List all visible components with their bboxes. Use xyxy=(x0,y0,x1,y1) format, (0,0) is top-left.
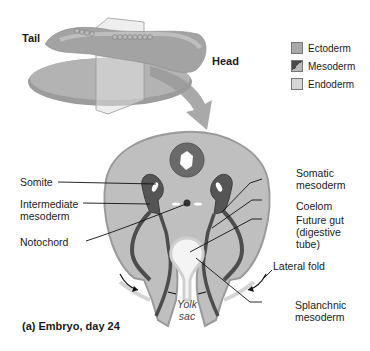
somatic-mesoderm-label-1: Somatic xyxy=(296,167,334,179)
notochord-label: Notochord xyxy=(20,236,68,248)
notochord xyxy=(184,200,191,207)
dorsal-aorta-right xyxy=(194,202,202,205)
future-gut-label-1: Future gut xyxy=(296,214,344,226)
legend-label: Endoderm xyxy=(308,79,354,90)
somite-label: Somite xyxy=(20,176,53,188)
legend-item-endoderm: Endoderm xyxy=(291,78,354,90)
somatic-mesoderm-label-2: mesoderm xyxy=(296,179,346,191)
figure-caption: (a) Embryo, day 24 xyxy=(22,320,120,332)
dorsal-aorta-left xyxy=(172,202,180,205)
cross-section xyxy=(104,132,269,326)
future-gut-label-3: tube) xyxy=(296,238,320,250)
lateral-fold-label: Lateral fold xyxy=(273,260,325,272)
intermediate-mesoderm-label-2: mesoderm xyxy=(20,210,70,222)
coelom-label: Coelom xyxy=(296,200,332,212)
legend-label: Ectoderm xyxy=(308,43,351,54)
legend-label: Mesoderm xyxy=(308,61,355,72)
yolk-sac-label-2: sac xyxy=(174,310,200,322)
legend-item-ectoderm: Ectoderm xyxy=(291,42,351,54)
mesoderm-swatch xyxy=(291,60,303,72)
splanchnic-mesoderm-label-1: Splanchnic xyxy=(295,299,346,311)
endoderm-swatch xyxy=(291,78,303,90)
future-gut-label-2: (digestive xyxy=(296,226,341,238)
head-label: Head xyxy=(212,55,239,67)
ectoderm-swatch xyxy=(291,42,303,54)
intermediate-mesoderm-label-1: Intermediate xyxy=(20,198,78,210)
splanchnic-mesoderm-label-2: mesoderm xyxy=(295,311,345,323)
tail-label: Tail xyxy=(22,32,40,44)
yolk-sac-label-1: Yolk xyxy=(174,298,200,310)
embryo-3d-view xyxy=(28,18,212,130)
legend-item-mesoderm: Mesoderm xyxy=(291,60,355,72)
